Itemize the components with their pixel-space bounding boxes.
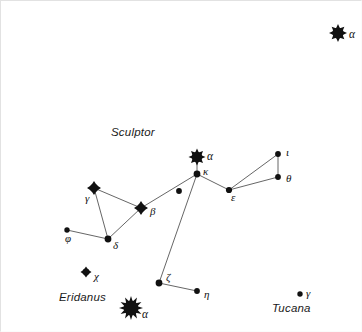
star-dot-icon <box>297 291 302 296</box>
star-spikes-icon <box>119 296 143 320</box>
star-label-epsilon-sculptoris: ε <box>231 191 235 203</box>
star-eta-sculptoris <box>194 288 200 294</box>
star-label-delta-sculptoris: δ <box>113 239 118 251</box>
star-dot-icon <box>156 280 163 287</box>
constellation-line <box>94 188 141 208</box>
star-gamma-tucanae <box>297 291 302 296</box>
star-label-zeta-sculptoris: ζ <box>166 271 170 283</box>
star-zeta-sculptoris <box>156 280 163 287</box>
constellation-line <box>229 154 278 190</box>
star-dot-icon <box>105 236 112 243</box>
star-theta-sculptoris <box>275 174 281 180</box>
star-label-iota-sculptoris: ι <box>286 146 289 158</box>
star-label-kappa-sculptoris: κ <box>203 165 208 177</box>
star-label-theta-sculptoris: θ <box>286 172 291 184</box>
constellation-name-tucana: Tucana <box>272 302 311 314</box>
star-dot-icon <box>194 171 201 178</box>
constellation-line <box>229 177 278 190</box>
star-chart-figure: αακιθεγβδφζηχαγSculptorEridanusTucana <box>0 0 362 332</box>
constellation-line <box>67 230 108 239</box>
star-iota-sculptoris <box>275 151 281 157</box>
star-spikes-icon <box>189 149 206 166</box>
star-dot-icon <box>275 151 281 157</box>
constellation-line <box>197 174 229 190</box>
star-spikes-icon <box>329 24 347 42</box>
star-label-alpha-eridani: α <box>142 308 148 320</box>
star-delta-sculptoris <box>105 236 112 243</box>
constellation-line <box>94 188 108 239</box>
star-label-gamma-sculptoris: γ <box>85 192 89 204</box>
constellation-line <box>159 283 197 291</box>
star-dot-icon <box>194 288 200 294</box>
constellation-line <box>108 208 141 239</box>
star-label-alpha-phoenicis: α <box>349 28 355 40</box>
star-chi-eridani <box>81 267 92 278</box>
star-unnamed-sculptoris <box>176 188 182 194</box>
star-label-eta-sculptoris: η <box>204 288 209 300</box>
star-label-beta-sculptoris: β <box>150 205 155 217</box>
star-kappa-sculptoris <box>194 171 201 178</box>
star-label-alpha-sculptoris: α <box>207 150 213 162</box>
star-label-phi-sculptoris: φ <box>65 232 71 244</box>
constellation-name-eridanus: Eridanus <box>59 291 106 303</box>
star-alpha-eridani <box>119 296 143 320</box>
star-dot-icon <box>176 188 182 194</box>
constellation-name-sculptor: Sculptor <box>111 126 155 138</box>
star-label-gamma-tucanae: γ <box>306 287 310 299</box>
star-alpha-phoenicis <box>329 24 347 42</box>
star-spikes-icon <box>81 267 92 278</box>
constellation-line <box>141 174 197 208</box>
star-label-chi-eridani: χ <box>94 270 99 282</box>
sky-canvas <box>1 1 362 332</box>
star-alpha-sculptoris <box>189 149 206 166</box>
star-dot-icon <box>275 174 281 180</box>
